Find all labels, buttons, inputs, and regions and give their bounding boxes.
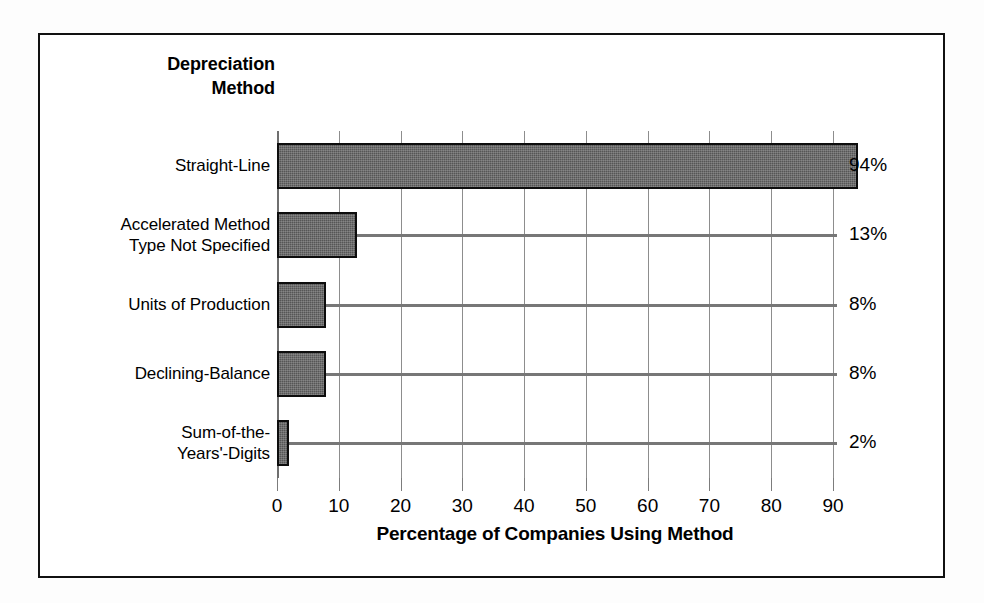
category-axis-title-line2: Method xyxy=(60,76,275,100)
category-label: Declining-Balance xyxy=(40,363,270,384)
x-tick-label-0: 0 xyxy=(257,495,297,517)
chart-figure: Depreciation Method Straight-LineAcceler… xyxy=(0,0,984,603)
x-tick-50 xyxy=(586,478,587,491)
plot-area: 0102030405060708090 94%13%8%8%2% Percent… xyxy=(277,131,833,478)
x-tick-label-20: 20 xyxy=(381,495,421,517)
x-tick-label-10: 10 xyxy=(319,495,359,517)
x-tick-80 xyxy=(771,478,772,491)
category-label: Units of Production xyxy=(40,294,270,315)
x-tick-20 xyxy=(401,478,402,491)
x-tick-10 xyxy=(339,478,340,491)
bar-value-label: 2% xyxy=(849,431,909,453)
bar[interactable] xyxy=(277,212,357,258)
category-axis-title-line1: Depreciation xyxy=(60,52,275,76)
category-label-line: Type Not Specified xyxy=(40,235,270,256)
leader-line xyxy=(326,304,837,307)
x-tick-60 xyxy=(648,478,649,491)
bar-value-label: 94% xyxy=(849,154,909,176)
category-label-line: Years'-Digits xyxy=(40,443,270,464)
category-label: Accelerated MethodType Not Specified xyxy=(40,214,270,256)
category-label-line: Straight-Line xyxy=(40,155,270,176)
bar[interactable] xyxy=(277,282,326,328)
x-axis-title: Percentage of Companies Using Method xyxy=(277,523,833,545)
x-tick-label-60: 60 xyxy=(628,495,668,517)
category-axis-title: Depreciation Method xyxy=(60,52,275,100)
x-tick-40 xyxy=(524,478,525,491)
x-tick-label-80: 80 xyxy=(751,495,791,517)
x-tick-30 xyxy=(462,478,463,491)
category-label-line: Accelerated Method xyxy=(40,214,270,235)
leader-line xyxy=(357,234,837,237)
bar[interactable] xyxy=(277,143,858,189)
x-tick-70 xyxy=(709,478,710,491)
x-tick-0 xyxy=(277,478,278,491)
category-label: Straight-Line xyxy=(40,155,270,176)
bar-value-label: 8% xyxy=(849,362,909,384)
category-label-group: Straight-LineAccelerated MethodType Not … xyxy=(38,131,270,478)
leader-line xyxy=(289,442,837,445)
bar[interactable] xyxy=(277,420,289,466)
category-label-line: Sum-of-the- xyxy=(40,422,270,443)
x-tick-label-40: 40 xyxy=(504,495,544,517)
category-label-line: Declining-Balance xyxy=(40,363,270,384)
x-tick-label-50: 50 xyxy=(566,495,606,517)
bar-value-label: 13% xyxy=(849,223,909,245)
bar-value-label: 8% xyxy=(849,293,909,315)
leader-line xyxy=(326,373,837,376)
x-tick-label-90: 90 xyxy=(813,495,853,517)
x-tick-90 xyxy=(833,478,834,491)
bar[interactable] xyxy=(277,351,326,397)
x-tick-label-30: 30 xyxy=(442,495,482,517)
x-tick-label-70: 70 xyxy=(689,495,729,517)
category-label: Sum-of-the-Years'-Digits xyxy=(40,422,270,464)
category-label-line: Units of Production xyxy=(40,294,270,315)
